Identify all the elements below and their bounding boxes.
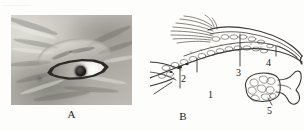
pupil <box>74 66 86 78</box>
panel-b-caption: B <box>163 110 203 122</box>
label-5: 5 <box>267 106 272 116</box>
label-2: 2 <box>181 74 186 84</box>
gland-inset <box>245 71 301 104</box>
tube-upper-outline <box>208 27 302 56</box>
granular-lining <box>158 35 273 79</box>
label-3: 3 <box>236 68 241 78</box>
panel-a-photograph <box>11 15 132 105</box>
eye-photograph-image <box>11 15 132 105</box>
leader-line-5 <box>268 98 272 105</box>
cut-off-header-text: ............ <box>2 0 72 9</box>
panel-a-caption: A <box>11 108 132 120</box>
gland-lobules <box>248 76 276 101</box>
label-4: 4 <box>266 58 271 68</box>
tube-lower-outline <box>150 49 302 78</box>
label-1: 1 <box>208 90 213 100</box>
figure-root: ............ <box>0 0 304 131</box>
proximal-base-edge <box>150 78 174 86</box>
